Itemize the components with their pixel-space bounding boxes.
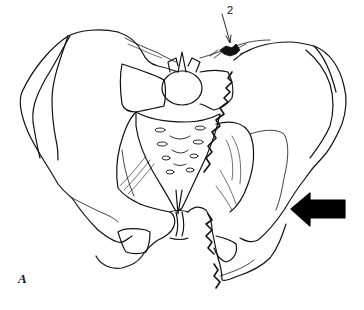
l5-vertebral-body: [162, 71, 202, 105]
pelvis-illustration: [0, 0, 364, 310]
sacral-foramina: [155, 126, 205, 174]
spinous-process: [178, 52, 186, 72]
left-iliac-wing: [20, 30, 132, 242]
left-arrow-icon: [291, 193, 345, 226]
left-obturator-ring: [96, 204, 175, 268]
pubic-symphysis: [176, 212, 184, 236]
panel-label-a: A: [18, 271, 27, 287]
fracture-site-2: [200, 40, 270, 58]
callout-label-2: 2: [227, 4, 233, 16]
right-acetabulum-fracture: [216, 122, 254, 212]
right-iliac-crest: [306, 50, 333, 158]
right-pubic-fracture: [206, 214, 220, 288]
l5-vertebra-left: [121, 64, 166, 112]
callout-leader-2: [222, 14, 230, 42]
left-obturator-foramen: [118, 229, 150, 254]
left-iliac-crest: [33, 36, 70, 158]
